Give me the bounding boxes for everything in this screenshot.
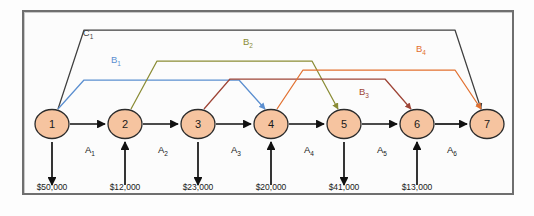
- cash-flow-4[interactable]: $20,000: [256, 142, 287, 192]
- node-6[interactable]: 6: [400, 110, 434, 139]
- node-label-1: 1: [49, 118, 55, 130]
- arc-layer: C1B1B2B3B4: [58, 27, 481, 109]
- horizontal-arrow-label: A3: [231, 144, 241, 157]
- horizontal-arrow-label-sub: 1: [91, 150, 95, 157]
- arc-label-B4: B4: [416, 43, 426, 56]
- horizontal-arrow-A4[interactable]: A4: [289, 124, 324, 157]
- arc-B1[interactable]: B1: [58, 54, 265, 109]
- arc-label-C1: C1: [83, 27, 94, 40]
- horizontal-arrow-label-sub: 6: [453, 150, 457, 157]
- cash-amount-label: $50,000: [37, 182, 68, 192]
- arc-label-sub-B1: 1: [117, 60, 121, 67]
- arc-label-B2: B2: [243, 36, 253, 49]
- cash-flow-3[interactable]: $23,000: [183, 142, 214, 192]
- node-label-6: 6: [414, 118, 420, 130]
- horizontal-arrow-label: A4: [304, 144, 314, 157]
- arc-label-sub-C1: 1: [90, 33, 94, 40]
- arc-label-sub-B3: 3: [365, 92, 369, 99]
- node-4[interactable]: 4: [254, 110, 288, 139]
- arc-path-B1: [58, 80, 265, 109]
- node-label-7: 7: [484, 118, 490, 130]
- node-label-3: 3: [195, 118, 201, 130]
- arc-B4[interactable]: B4: [277, 43, 481, 109]
- node-layer: 1234567: [35, 110, 504, 139]
- arc-label-B3: B3: [359, 86, 369, 99]
- node-5[interactable]: 5: [327, 110, 361, 139]
- diagram-graphics: C1B1B2B3B4A1A2A3A4A5A6$50,000$12,000$23,…: [0, 0, 534, 216]
- horizontal-arrow-A3[interactable]: A3: [216, 124, 251, 157]
- horizontal-arrow-label-sub: 5: [383, 150, 387, 157]
- cash-flow-5[interactable]: $41,000: [329, 142, 360, 192]
- horizontal-arrow-label-sub: 2: [164, 150, 168, 157]
- arc-path-B4: [277, 70, 481, 109]
- cash-amount-label: $20,000: [256, 182, 287, 192]
- node-label-5: 5: [341, 118, 347, 130]
- arc-label-B1: B1: [111, 54, 121, 67]
- arc-label-sub-B2: 2: [249, 42, 253, 49]
- horizontal-arrow-label: A6: [447, 144, 457, 157]
- arc-path-B3: [204, 79, 411, 109]
- horizontal-arrow-A6[interactable]: A6: [435, 124, 467, 157]
- horizontal-arrow-A2[interactable]: A2: [143, 124, 178, 157]
- arc-path-B2: [131, 61, 338, 109]
- node-1[interactable]: 1: [35, 110, 69, 139]
- cash-flow-6[interactable]: $13,000: [402, 142, 433, 192]
- horizontal-arrow-label: A5: [377, 144, 387, 157]
- arc-C1[interactable]: C1: [58, 27, 481, 109]
- node-2[interactable]: 2: [108, 110, 142, 139]
- horizontal-arrow-label: A1: [85, 144, 95, 157]
- cash-flow-1[interactable]: $50,000: [37, 142, 68, 192]
- diagram-canvas: C1B1B2B3B4A1A2A3A4A5A6$50,000$12,000$23,…: [0, 0, 534, 216]
- node-3[interactable]: 3: [181, 110, 215, 139]
- horizontal-arrow-label-sub: 4: [310, 150, 314, 157]
- node-label-2: 2: [122, 118, 128, 130]
- network-svg: C1B1B2B3B4A1A2A3A4A5A6$50,000$12,000$23,…: [0, 0, 534, 216]
- arc-label-sub-B4: 4: [422, 49, 426, 56]
- horizontal-arrow-label: A2: [158, 144, 168, 157]
- cash-amount-label: $13,000: [402, 182, 433, 192]
- cash-amount-label: $12,000: [110, 182, 141, 192]
- arc-B2[interactable]: B2: [131, 36, 338, 109]
- node-7[interactable]: 7: [470, 110, 504, 139]
- horizontal-arrow-label-sub: 3: [237, 150, 241, 157]
- cash-amount-label: $41,000: [329, 182, 360, 192]
- horizontal-arrow-A1[interactable]: A1: [70, 124, 105, 157]
- horizontal-arrow-A5[interactable]: A5: [362, 124, 397, 157]
- node-label-4: 4: [268, 118, 274, 130]
- arc-B3[interactable]: B3: [204, 79, 411, 109]
- cash-flow-2[interactable]: $12,000: [110, 142, 141, 192]
- cash-amount-label: $23,000: [183, 182, 214, 192]
